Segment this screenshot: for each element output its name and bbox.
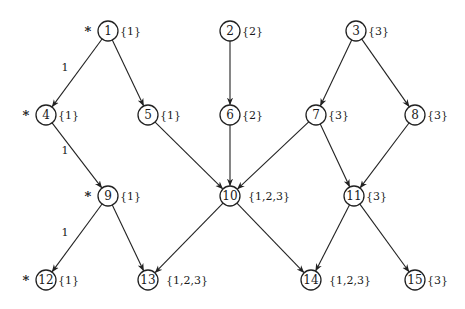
edge-arrow	[360, 123, 409, 188]
edge-arrow	[52, 204, 102, 272]
edge-4-9: 1	[52, 123, 102, 188]
edge-11-15	[360, 204, 409, 271]
edge-9-12: 1	[52, 204, 102, 272]
node-set-label: {3}	[427, 274, 448, 287]
node-3: 3{3}	[346, 21, 389, 41]
edge-arrow	[316, 205, 350, 271]
node-1: 1{1}*	[85, 21, 141, 41]
node-id-label: 5	[144, 108, 152, 122]
node-10: 10{1,2,3}	[220, 186, 290, 206]
node-13: 13{1,2,3}	[138, 270, 208, 290]
graph-svg: 111 1{1}*2{2}3{3}4{1}*5{1}6{2}7{3}8{3}9{…	[0, 0, 465, 309]
edge-9-13	[112, 205, 143, 270]
edge-arrow	[321, 40, 352, 105]
edge-5-10	[155, 122, 222, 189]
node-set-label: {3}	[328, 109, 349, 122]
edge-8-11	[360, 123, 409, 188]
edge-arrow	[112, 205, 143, 270]
edge-arrow	[155, 203, 223, 272]
node-14: 14{1,2,3}	[301, 270, 371, 290]
edge-arrow	[320, 124, 349, 186]
edge-arrow	[362, 39, 409, 106]
node-set-label: {1,2,3}	[166, 274, 208, 287]
node-set-label: {3}	[366, 190, 387, 203]
edge-3-7	[321, 40, 352, 105]
node-set-label: {3}	[368, 25, 389, 38]
edge-arrow	[360, 204, 409, 271]
edges-layer: 111	[52, 39, 409, 272]
node-set-label: {2}	[242, 25, 263, 38]
node-set-label: {2}	[242, 109, 263, 122]
node-4: 4{1}*	[23, 105, 79, 125]
node-id-label: 10	[222, 189, 237, 203]
edge-arrow	[52, 39, 102, 107]
node-id-label: 3	[352, 24, 360, 38]
node-5: 5{1}	[138, 105, 181, 125]
node-id-label: 4	[42, 108, 50, 122]
node-id-label: 8	[411, 108, 419, 122]
node-15: 15{3}	[405, 270, 448, 290]
node-id-label: 13	[140, 273, 155, 287]
edge-label: 1	[62, 226, 69, 239]
edge-7-10	[238, 122, 309, 189]
edge-arrow	[238, 122, 309, 189]
edge-10-13	[155, 203, 223, 272]
node-12: 12{1}*	[23, 270, 79, 290]
edge-11-14	[316, 205, 350, 271]
edge-arrow	[237, 203, 304, 272]
node-set-label: {3}	[427, 109, 448, 122]
edge-arrow	[52, 123, 102, 188]
star-marker: *	[85, 24, 92, 39]
edge-label: 1	[62, 61, 69, 74]
node-id-label: 15	[407, 273, 422, 287]
node-set-label: {1}	[58, 274, 79, 287]
edge-arrow	[112, 40, 143, 105]
edge-label: 1	[62, 144, 69, 157]
edge-1-5	[112, 40, 143, 105]
edge-7-11	[320, 124, 349, 186]
node-id-label: 2	[226, 24, 234, 38]
node-set-label: {1}	[160, 109, 181, 122]
edge-10-14	[237, 203, 304, 272]
node-6: 6{2}	[220, 105, 263, 125]
star-marker: *	[23, 273, 30, 288]
edge-1-4: 1	[52, 39, 102, 107]
node-id-label: 1	[104, 24, 112, 38]
node-11: 11{3}	[344, 186, 387, 206]
node-set-label: {1}	[120, 25, 141, 38]
edge-3-8	[362, 39, 409, 106]
node-7: 7{3}	[306, 105, 349, 125]
star-marker: *	[85, 189, 92, 204]
node-id-label: 14	[303, 273, 319, 287]
node-2: 2{2}	[220, 21, 263, 41]
node-id-label: 7	[312, 108, 320, 122]
node-id-label: 9	[104, 189, 112, 203]
graph-diagram: 111 1{1}*2{2}3{3}4{1}*5{1}6{2}7{3}8{3}9{…	[0, 0, 465, 309]
node-id-label: 12	[38, 273, 53, 287]
node-8: 8{3}	[405, 105, 448, 125]
node-id-label: 11	[346, 189, 361, 203]
edge-arrow	[155, 122, 222, 189]
node-set-label: {1,2,3}	[329, 274, 371, 287]
node-set-label: {1,2,3}	[248, 190, 290, 203]
node-set-label: {1}	[120, 190, 141, 203]
star-marker: *	[23, 108, 30, 123]
node-set-label: {1}	[58, 109, 79, 122]
node-9: 9{1}*	[85, 186, 141, 206]
node-id-label: 6	[226, 108, 234, 122]
